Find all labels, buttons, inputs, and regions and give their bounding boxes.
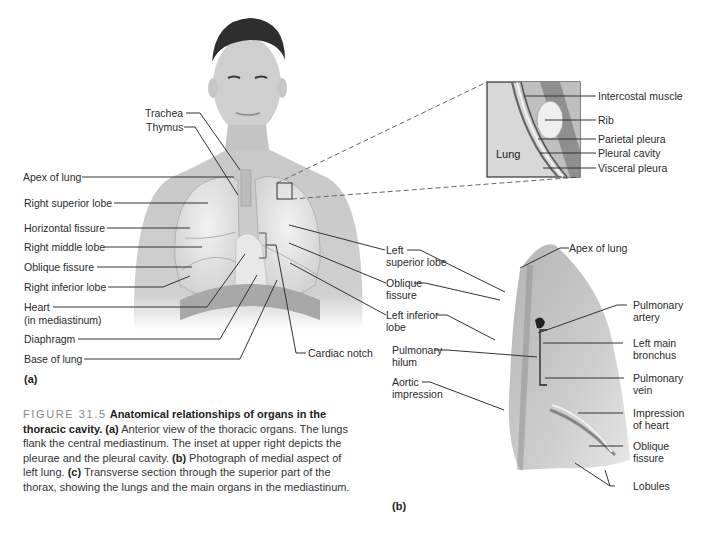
label-right-superior-lobe: Right superior lobe	[24, 197, 112, 210]
label-apex-of-lung: Apex of lung	[23, 171, 81, 184]
label-oblique-fissure-a: Oblique fissure	[24, 261, 94, 274]
label-horizontal-fissure: Horizontal fissure	[24, 222, 105, 235]
label-lobules: Lobules	[633, 480, 670, 493]
label-pulmonary-vein-1: Pulmonary	[633, 372, 683, 385]
caption-tag-c: (c)	[68, 466, 81, 478]
label-pulmonary-artery-1: Pulmonary	[633, 299, 683, 312]
torso-figure	[134, 150, 362, 330]
inset-label-lung: Lung	[496, 148, 520, 160]
label-left-main-bronchus-1: Left main	[633, 337, 676, 350]
label-right-inferior-lobe: Right inferior lobe	[24, 281, 106, 294]
label-oblique: Oblique	[386, 277, 422, 290]
label-apex-of-lung-b: Apex of lung	[569, 242, 627, 255]
panel-label-a: (a)	[24, 373, 37, 385]
label-base-of-lung: Base of lung	[24, 353, 82, 366]
label-left-main-bronchus-2: bronchus	[633, 349, 676, 362]
label-parietal-pleura: Parietal pleura	[598, 133, 666, 146]
label-left: Left	[386, 244, 404, 257]
label-impression-of-heart-2: of heart	[633, 419, 669, 432]
label-oblique-fissure-b-1: Oblique	[633, 440, 669, 453]
label-pleural-cavity: Pleural cavity	[598, 147, 660, 160]
label-thymus: Thymus	[146, 121, 183, 134]
label-pulmonary-vein-2: vein	[633, 384, 652, 397]
label-diaphragm: Diaphragm	[24, 333, 75, 346]
label-intercostal-muscle: Intercostal muscle	[598, 90, 683, 103]
figure-caption: FIGURE 31.5 Anatomical relationships of …	[23, 407, 353, 494]
label-fissure: fissure	[386, 289, 417, 302]
label-right-middle-lobe: Right middle lobe	[24, 241, 105, 254]
head-figure	[208, 18, 287, 158]
label-oblique-fissure-b-2: fissure	[633, 452, 664, 465]
caption-tag-a: (a)	[105, 423, 118, 435]
label-left-inferior: Left inferior	[386, 309, 439, 322]
pleura-inset-image	[487, 82, 580, 177]
label-heart: Heart	[24, 301, 50, 314]
label-impression-of-heart-1: Impression	[633, 407, 684, 420]
label-aortic-impression-2: impression	[392, 388, 443, 401]
label-pulmonary-artery-2: artery	[633, 311, 660, 324]
label-cardiac-notch: Cardiac notch	[308, 347, 373, 360]
label-rib: Rib	[598, 114, 614, 127]
figure-number: FIGURE 31.5	[23, 408, 107, 420]
label-visceral-pleura: Visceral pleura	[598, 162, 667, 175]
label-trachea: Trachea	[145, 107, 183, 120]
label-pulmonary-hilum-1: Pulmonary	[392, 344, 442, 357]
label-in-mediastinum: (in mediastinum)	[24, 314, 102, 327]
caption-tag-b: (b)	[172, 452, 186, 464]
label-aortic-impression-1: Aortic	[392, 376, 419, 389]
panel-label-b: (b)	[392, 500, 406, 512]
label-lobe: lobe	[386, 321, 406, 334]
label-pulmonary-hilum-2: hilum	[392, 356, 417, 369]
left-lung-photo	[509, 244, 630, 470]
label-superior-lobe: superior lobe	[386, 256, 447, 269]
